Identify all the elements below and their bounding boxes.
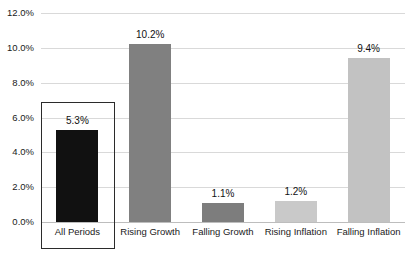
category-label-falling-inflation: Falling Inflation [332, 226, 405, 237]
bar-value-label: 10.2% [136, 30, 164, 40]
bar-chart: 0.0%2.0%4.0%6.0%8.0%10.0%12.0% 5.3%10.2%… [0, 0, 417, 258]
bar-value-label: 9.4% [357, 44, 380, 54]
bar-falling-growth[interactable]: 1.1% [202, 203, 244, 222]
y-axis-tick-label: 0.0% [0, 217, 34, 227]
y-axis-tick-label: 4.0% [0, 148, 34, 158]
y-axis-tick-label: 10.0% [0, 43, 34, 53]
bar-value-label: 5.3% [66, 116, 89, 126]
category-label-rising-inflation: Rising Inflation [259, 226, 332, 237]
category-label-rising-growth: Rising Growth [114, 226, 187, 237]
y-axis-tick-label: 2.0% [0, 182, 34, 192]
y-axis-tick-label: 12.0% [0, 8, 34, 18]
category-label-falling-growth: Falling Growth [187, 226, 260, 237]
y-axis-tick-label: 8.0% [0, 78, 34, 88]
category-axis: All PeriodsRising GrowthFalling GrowthRi… [41, 226, 405, 246]
bar-rising-inflation[interactable]: 1.2% [275, 201, 317, 222]
bars-group: 5.3%10.2%1.1%1.2%9.4% [41, 13, 405, 222]
bar-rising-growth[interactable]: 10.2% [129, 44, 171, 222]
plot-area: 0.0%2.0%4.0%6.0%8.0%10.0%12.0% 5.3%10.2%… [41, 13, 405, 222]
category-label-all-periods: All Periods [41, 226, 114, 237]
bar-falling-inflation[interactable]: 9.4% [348, 58, 390, 222]
gridline-0.0 [41, 222, 405, 223]
y-axis-tick-label: 6.0% [0, 113, 34, 123]
bar-value-label: 1.1% [212, 189, 235, 199]
bar-all-periods[interactable]: 5.3% [56, 130, 98, 222]
bar-value-label: 1.2% [284, 187, 307, 197]
